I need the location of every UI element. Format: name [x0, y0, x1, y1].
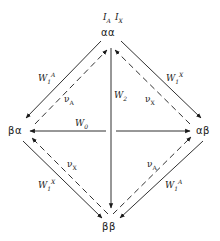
- arrow-vx-lower-left: [32, 138, 108, 214]
- label-w1a-top-left: W1A: [38, 74, 55, 83]
- label-va-upper-left: νA: [64, 95, 74, 104]
- arrow-w1x-top-right: [121, 41, 201, 118]
- label-w1a-bottom-right: W1A: [165, 181, 182, 190]
- arrow-w1a-bottom-right: [120, 141, 203, 218]
- label-w1x-top-right: W1X: [166, 74, 183, 83]
- state-alpha-beta: αβ: [196, 126, 210, 136]
- label-w1x-bottom-left: W1X: [38, 181, 55, 190]
- state-alpha-alpha: αα: [101, 28, 115, 38]
- arrow-vx-upper-right: [115, 50, 190, 124]
- state-beta-beta: ββ: [102, 222, 116, 232]
- arrow-va-lower-right: [113, 137, 191, 214]
- label-w0: W0: [75, 119, 88, 128]
- label-vx-lower-left: νX: [67, 160, 77, 169]
- label-va-lower-right: νA: [147, 160, 157, 169]
- state-beta-alpha: βα: [8, 126, 22, 136]
- label-vx-upper-right: νX: [145, 95, 155, 104]
- arrow-va-upper-left: [35, 50, 107, 124]
- spin-label-x: IX: [115, 13, 123, 22]
- label-w2: W2: [114, 91, 127, 100]
- spin-label-a: IA: [103, 13, 111, 22]
- arrow-w1x-bottom-left: [23, 141, 102, 218]
